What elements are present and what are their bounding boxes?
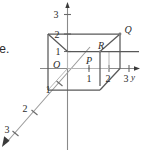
- z-tick-3-label: 3: [54, 9, 59, 20]
- point-marker-R: [99, 50, 101, 52]
- point-label-O: O: [53, 59, 60, 70]
- z-tick-1-label: 1: [56, 46, 61, 57]
- point-label-Q: Q: [124, 24, 132, 35]
- y-tick-1-label: 1: [87, 73, 92, 84]
- coordinate-system-svg: 3 2 1 1 2 3 1 2 3 y O P R Q: [0, 0, 145, 150]
- point-marker-Q: [119, 33, 122, 36]
- y-tick-2-label: 2: [106, 73, 111, 84]
- x-tick-2-label: 2: [23, 103, 28, 114]
- y-axis-arrowhead: [134, 66, 140, 70]
- point-label-P: P: [85, 55, 92, 66]
- y-tick-3-label: 3: [124, 73, 129, 84]
- x-tick-1-label: 1: [46, 84, 51, 95]
- z-tick-2-label: 2: [55, 29, 60, 40]
- x-tick-3-label: 3: [5, 124, 10, 135]
- coordinate-figure: te.: [0, 0, 145, 150]
- axes-group: [2, 2, 140, 150]
- labels-group: 3 2 1 1 2 3 1 2 3 y O P R Q: [5, 9, 136, 135]
- point-marker-P: [88, 67, 90, 69]
- z-axis-arrowhead: [65, 2, 69, 8]
- tick-marks-group: [13, 15, 130, 137]
- point-label-R: R: [97, 40, 104, 51]
- x-axis-arrowhead: [2, 136, 10, 147]
- hidden-edge-origin-to-x: [48, 69, 68, 91]
- y-axis-label: y: [130, 72, 135, 82]
